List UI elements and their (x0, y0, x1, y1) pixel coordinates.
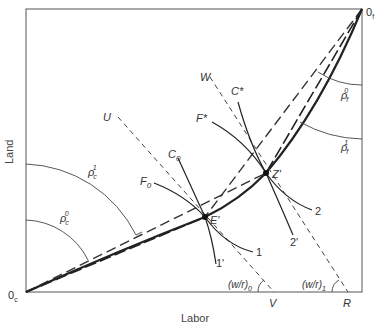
arc-rho-c0 (26, 220, 88, 260)
arc-rho-f1 (300, 122, 362, 139)
wage-rent-ratio-1-label: (w/r)1 (302, 279, 326, 292)
price-line-U-label: U (103, 111, 111, 123)
point-Z-label: Z' (271, 168, 282, 180)
angle-rho-f1-label: ρf1 (340, 139, 349, 155)
contract-curve (26, 9, 362, 292)
arc-rho-c1 (26, 164, 136, 235)
angle-rho-c1-label: ρc1 (87, 164, 97, 180)
arc-wr1 (332, 280, 339, 292)
isoquant-C0-1prime (178, 158, 216, 264)
price-line-W-label: W (200, 71, 212, 83)
y-axis-title: Land (3, 140, 15, 164)
origin-clothing-label: 0c (8, 289, 18, 303)
price-line-V-label: V (269, 297, 278, 309)
edgeworth-box-diagram: 0f 0c E' Z' C0 F0 C* F* 1 1' 2 2' U W V … (0, 0, 383, 329)
price-line-W-R (210, 77, 348, 292)
wage-rent-ratio-0-label: (w/r)0 (228, 279, 252, 292)
box-frame (26, 9, 362, 292)
isoquant-1prime-label: 1' (216, 257, 224, 269)
ray-f-to-e (205, 9, 362, 217)
origin-food-label: 0f (366, 6, 374, 20)
point-E-label: E' (210, 214, 220, 226)
angle-rho-c0-label: ρc0 (59, 210, 69, 226)
isoquant-C0-label: C0 (168, 148, 181, 163)
isoquant-Cstar-2prime (238, 102, 293, 235)
isoquant-Fstar-2 (212, 122, 312, 210)
isoquant-2-label: 2 (315, 205, 321, 217)
x-axis-title: Labor (181, 312, 209, 324)
isoquant-1-label: 1 (256, 246, 262, 258)
isoquant-Fstar-label: F* (196, 112, 208, 124)
isoquant-F0-label: F0 (140, 175, 152, 190)
isoquant-Cstar-label: C* (231, 85, 244, 97)
isoquant-2prime-label: 2' (290, 236, 298, 248)
price-line-R-label: R (343, 297, 351, 309)
point-Z (263, 170, 269, 176)
angle-rho-f0-label: ρf0 (340, 87, 349, 103)
point-E (202, 214, 208, 220)
ray-c-to-z (26, 173, 266, 292)
price-line-U-V (118, 117, 274, 292)
arc-wr0 (258, 280, 264, 292)
